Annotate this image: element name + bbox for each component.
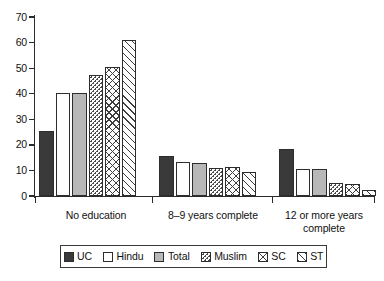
bar-st-group-3 — [362, 190, 377, 196]
legend-label-muslim: Muslim — [214, 251, 247, 262]
bar-uc-group-2 — [159, 156, 174, 196]
y-tick-label-30: 30 — [16, 114, 27, 124]
bar-total-group-1 — [72, 93, 87, 196]
category-label-1: No education — [38, 209, 154, 222]
legend-label-uc: UC — [77, 251, 92, 262]
legend-swatch-hindu-icon — [103, 252, 113, 262]
bar-st-group-1 — [122, 40, 137, 196]
y-tick-label-50: 50 — [16, 63, 27, 73]
bars-layer — [35, 17, 375, 196]
bar-sc-group-3 — [345, 184, 360, 196]
y-tick-label-10: 10 — [16, 165, 27, 175]
bar-hindu-group-1 — [56, 93, 71, 196]
bar-total-group-3 — [312, 169, 327, 196]
x-tick-3 — [272, 196, 273, 203]
legend-label-st: ST — [310, 251, 323, 262]
legend-item-st[interactable]: ST — [297, 251, 324, 262]
legend-swatch-muslim-icon — [201, 252, 211, 262]
x-tick-4 — [374, 196, 375, 203]
y-tick-label-0: 0 — [21, 191, 27, 201]
legend-item-total[interactable]: Total — [154, 251, 189, 262]
bar-sc-group-1 — [105, 67, 120, 196]
legend-swatch-uc-icon — [64, 252, 74, 262]
bar-chart: 706050403020100 No education8–9 years co… — [0, 0, 384, 281]
x-tick-1 — [35, 196, 36, 203]
legend-swatch-st-icon — [297, 252, 307, 262]
category-label-2: 8–9 years complete — [152, 209, 274, 222]
bar-uc-group-1 — [39, 131, 54, 196]
legend-item-uc[interactable]: UC — [64, 251, 92, 262]
bar-sc-group-2 — [225, 167, 240, 196]
legend-swatch-total-icon — [154, 252, 164, 262]
bar-hindu-group-3 — [296, 169, 311, 196]
legend-item-hindu[interactable]: Hindu — [103, 251, 143, 262]
x-axis-line — [34, 196, 375, 197]
x-tick-2 — [152, 196, 153, 203]
y-tick-label-40: 40 — [16, 88, 27, 98]
legend-item-sc[interactable]: SC — [258, 251, 286, 262]
bar-muslim-group-3 — [329, 183, 344, 196]
bar-total-group-2 — [192, 163, 207, 196]
bar-muslim-group-2 — [209, 168, 224, 196]
y-tick-label-20: 20 — [16, 139, 27, 149]
legend-label-sc: SC — [271, 251, 285, 262]
bar-muslim-group-1 — [89, 75, 104, 196]
legend-item-muslim[interactable]: Muslim — [201, 251, 247, 262]
legend-swatch-sc-icon — [258, 252, 268, 262]
chart-legend: UCHinduTotalMuslimSCST — [60, 245, 327, 268]
bar-st-group-2 — [242, 172, 257, 196]
legend-label-hindu: Hindu — [117, 251, 144, 262]
legend-label-total: Total — [168, 251, 190, 262]
y-tick-label-60: 60 — [16, 37, 27, 47]
bar-hindu-group-2 — [176, 162, 191, 196]
category-label-3: 12 or more years complete — [272, 209, 376, 234]
y-tick-label-70: 70 — [16, 12, 27, 22]
bar-uc-group-3 — [279, 149, 294, 196]
